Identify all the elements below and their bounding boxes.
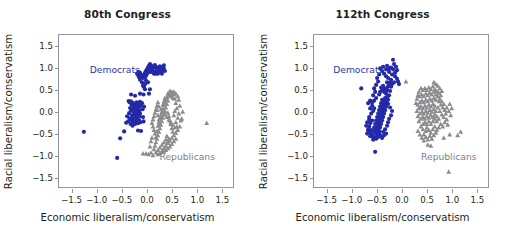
data-point (380, 136, 384, 140)
data-point (389, 85, 393, 89)
data-point (141, 92, 145, 96)
data-point (133, 94, 137, 98)
x-tick-mark (427, 189, 428, 193)
y-tick-mark (55, 156, 59, 157)
y-tick-mark (310, 134, 314, 135)
data-point (141, 115, 145, 119)
data-point (146, 68, 150, 72)
x-tick-label: 1.5 (471, 195, 485, 205)
data-point (373, 126, 377, 130)
data-point (388, 105, 392, 109)
data-point (150, 135, 155, 139)
data-point (375, 76, 379, 80)
data-point (364, 124, 368, 128)
series-annotation-democrats: Democrats (333, 64, 383, 75)
data-point (155, 100, 160, 104)
y-axis-title-text: Racial liberalism/conservatism (259, 33, 270, 188)
x-tick-mark (402, 189, 403, 193)
x-tick-label: 1.0 (445, 195, 459, 205)
data-point (391, 58, 395, 62)
data-point (140, 101, 144, 105)
y-tick-label: 1.0 (39, 63, 53, 73)
y-tick-label: 1.0 (294, 63, 308, 73)
data-point (374, 83, 378, 87)
data-point (441, 135, 446, 139)
data-point (136, 128, 140, 132)
x-tick-mark (172, 189, 173, 193)
data-point (148, 144, 153, 148)
data-point (175, 115, 180, 119)
y-axis-title: Racial liberalism/conservatism (2, 34, 16, 188)
y-axis-title-text: Racial liberalism/conservatism (4, 33, 15, 188)
data-point (177, 103, 182, 107)
data-point (386, 120, 390, 124)
x-tick-mark (147, 189, 148, 193)
data-point (387, 117, 391, 121)
data-point (395, 68, 399, 72)
data-point (147, 92, 151, 96)
y-tick-mark (55, 134, 59, 135)
series-annotation-democrats: Democrats (90, 64, 140, 75)
data-point (373, 90, 377, 94)
x-tick-label: 1.0 (190, 195, 204, 205)
data-point (118, 136, 122, 140)
x-tick-label: 0.0 (140, 195, 154, 205)
data-point (373, 150, 377, 154)
panel-80th-congress: 80th Congress Racial liberalism/conserva… (0, 0, 255, 240)
x-tick-mark (122, 189, 123, 193)
data-point (425, 142, 430, 146)
data-point (388, 89, 392, 93)
data-point (142, 105, 146, 109)
x-tick-label: 1.5 (216, 195, 230, 205)
x-tick-mark (97, 189, 98, 193)
data-point (390, 109, 394, 113)
data-point (138, 92, 142, 96)
data-point (377, 92, 381, 96)
y-tick-label: 0.5 (39, 85, 53, 95)
data-point (389, 113, 393, 117)
y-tick-label: −1.5 (287, 173, 308, 183)
y-tick-mark (310, 68, 314, 69)
x-axis-title: Economic liberalism/conservatism (255, 212, 510, 223)
data-point (449, 106, 454, 110)
scatter-canvas (314, 35, 488, 187)
data-point (386, 102, 390, 106)
x-tick-mark (327, 189, 328, 193)
data-point (122, 129, 126, 133)
data-point (180, 109, 185, 113)
data-point (372, 86, 376, 90)
y-tick-label: −1.5 (32, 173, 53, 183)
y-tick-label: 0.0 (294, 107, 308, 117)
data-point (171, 113, 176, 117)
data-point (397, 82, 401, 86)
data-point (141, 151, 146, 155)
series-annotation-republicans: Republicans (159, 150, 215, 161)
x-tick-mark (352, 189, 353, 193)
y-tick-label: 0.0 (39, 107, 53, 117)
data-point (143, 75, 147, 79)
x-tick-label: 0.5 (420, 195, 434, 205)
series-annotation-republicans: Republicans (421, 150, 477, 161)
data-point (447, 132, 452, 136)
figure-root: 80th Congress Racial liberalism/conserva… (0, 0, 510, 240)
data-point (446, 169, 451, 173)
data-point (431, 80, 436, 84)
data-point (204, 121, 209, 125)
x-tick-label: 0.5 (165, 195, 179, 205)
data-point (385, 124, 389, 128)
plot-area: 1.51.00.50.0−0.5−1.0−1.5−1.5−1.0−0.50.00… (313, 34, 489, 188)
panel-title: 112th Congress (255, 8, 510, 20)
data-point (359, 86, 363, 90)
x-tick-label: −1.0 (341, 195, 362, 205)
x-tick-mark (72, 189, 73, 193)
data-point (418, 86, 423, 90)
y-tick-label: −1.0 (32, 151, 53, 161)
y-tick-mark (55, 112, 59, 113)
data-point (448, 113, 453, 117)
data-point (404, 79, 409, 83)
panel-112th-congress: 112th Congress Racial liberalism/conserv… (255, 0, 510, 240)
data-point (162, 63, 166, 67)
data-point (177, 124, 182, 128)
data-point (368, 131, 372, 135)
data-point (146, 80, 150, 84)
